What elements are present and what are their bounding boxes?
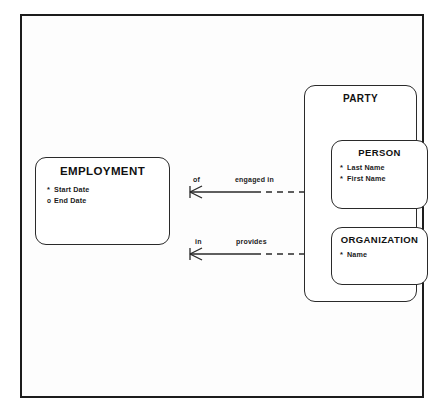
attribute-name: Start Date	[54, 184, 89, 195]
attribute-row: * Last Name	[340, 162, 386, 173]
mandatory-marker-icon: *	[340, 162, 347, 173]
entity-organization[interactable]: ORGANIZATION * Name	[331, 227, 428, 285]
attribute-row: * Start Date	[47, 184, 89, 195]
diagram-frame: EMPLOYMENT * Start Date o End Date PARTY…	[20, 14, 424, 398]
crows-foot-icon	[190, 248, 202, 260]
entity-title-employment: EMPLOYMENT	[36, 165, 169, 177]
attribute-list-person: * Last Name * First Name	[340, 162, 386, 184]
attribute-list-organization: * Name	[340, 249, 367, 260]
attribute-name: Last Name	[347, 162, 385, 173]
crows-foot-icon	[190, 186, 202, 198]
relationship-label-provides: provides	[236, 238, 267, 245]
attribute-name: Name	[347, 249, 367, 260]
mandatory-marker-icon: *	[340, 173, 347, 184]
relationship-label-in: in	[195, 238, 202, 245]
entity-person[interactable]: PERSON * Last Name * First Name	[331, 140, 428, 209]
mandatory-marker-icon: *	[340, 249, 347, 260]
mandatory-marker-icon: *	[47, 184, 54, 195]
attribute-row: o End Date	[47, 195, 89, 206]
attribute-row: * First Name	[340, 173, 386, 184]
entity-party[interactable]: PARTY PERSON * Last Name * First Name OR…	[304, 85, 417, 302]
relationship-label-of: of	[193, 176, 200, 183]
attribute-list-employment: * Start Date o End Date	[47, 184, 89, 206]
optional-marker-icon: o	[47, 195, 54, 206]
relationship-label-engaged-in: engaged in	[235, 176, 274, 183]
entity-title-party: PARTY	[305, 93, 416, 104]
entity-title-organization: ORGANIZATION	[332, 234, 427, 245]
entity-employment[interactable]: EMPLOYMENT * Start Date o End Date	[35, 157, 170, 245]
entity-title-person: PERSON	[332, 147, 427, 158]
attribute-row: * Name	[340, 249, 367, 260]
attribute-name: First Name	[347, 173, 386, 184]
attribute-name: End Date	[54, 195, 86, 206]
